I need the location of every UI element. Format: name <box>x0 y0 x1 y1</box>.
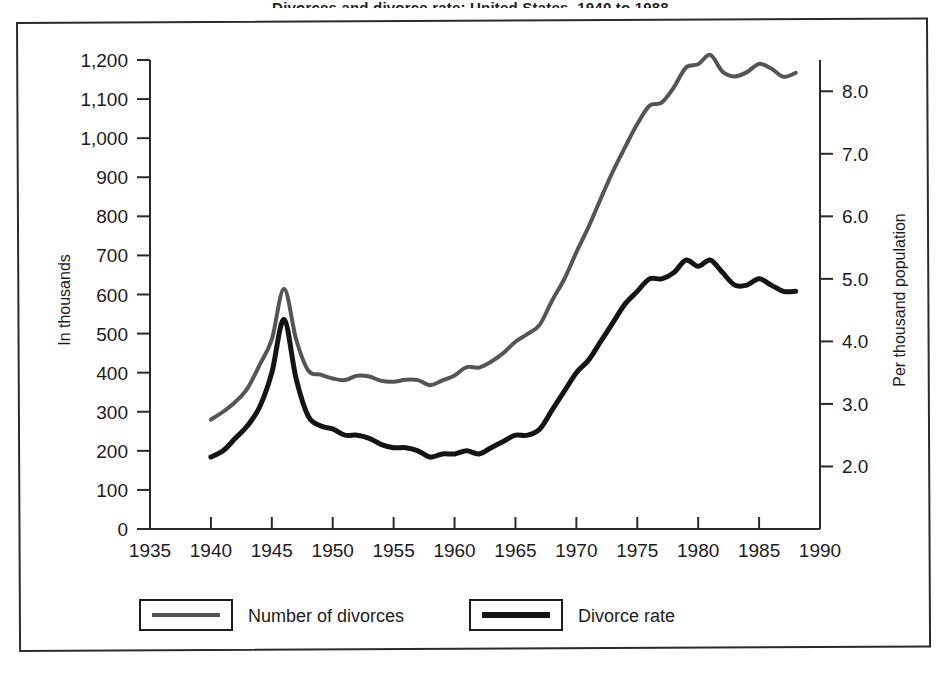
x-tick-label: 1960 <box>433 540 475 561</box>
right-tick-label: 3.0 <box>842 394 868 415</box>
left-tick-label: 1,100 <box>80 89 128 110</box>
x-tick-label: 1950 <box>312 540 354 561</box>
x-tick-label: 1935 <box>129 540 171 561</box>
right-axis-title: Per thousand population <box>891 213 908 386</box>
x-axis: 1935194019451950195519601965197019751980… <box>129 517 841 561</box>
left-tick-label: 400 <box>96 363 128 384</box>
x-tick-label: 1975 <box>616 540 658 561</box>
left-y-axis: 01002003004005006007008009001,0001,1001,… <box>56 50 150 540</box>
divorce-chart-svg: 01002003004005006007008009001,0001,1001,… <box>0 0 941 677</box>
left-tick-label: 200 <box>96 441 128 462</box>
left-tick-label: 1,000 <box>80 128 128 149</box>
x-tick-label: 1965 <box>494 540 536 561</box>
x-tick-label: 1985 <box>738 540 780 561</box>
series-number-of-divorces <box>211 55 796 420</box>
right-tick-label: 2.0 <box>842 456 868 477</box>
x-tick-label: 1945 <box>251 540 293 561</box>
left-tick-label: 1,200 <box>80 50 128 71</box>
x-tick-label: 1940 <box>190 540 232 561</box>
x-tick-label: 1990 <box>799 540 841 561</box>
legend-label-1: Divorce rate <box>578 606 675 626</box>
left-tick-label: 900 <box>96 167 128 188</box>
series-divorce-rate <box>211 260 796 457</box>
right-tick-label: 8.0 <box>842 81 868 102</box>
left-axis-title: In thousands <box>56 254 73 346</box>
chart-figure: 01002003004005006007008009001,0001,1001,… <box>0 0 941 677</box>
x-tick-label: 1970 <box>555 540 597 561</box>
left-tick-label: 500 <box>96 324 128 345</box>
right-tick-label: 5.0 <box>842 269 868 290</box>
left-tick-label: 0 <box>117 519 128 540</box>
right-y-axis: 2.03.04.05.06.07.08.0 Per thousand popul… <box>820 60 908 529</box>
left-tick-label: 700 <box>96 245 128 266</box>
x-tick-label: 1980 <box>677 540 719 561</box>
chart-legend: Number of divorces Divorce rate <box>140 600 675 630</box>
left-tick-label: 300 <box>96 402 128 423</box>
left-tick-label: 600 <box>96 285 128 306</box>
chart-page: Divorces and divorce rate: United States… <box>0 0 941 677</box>
x-tick-label: 1955 <box>372 540 414 561</box>
right-tick-label: 4.0 <box>842 331 868 352</box>
left-tick-label: 800 <box>96 206 128 227</box>
right-tick-label: 6.0 <box>842 206 868 227</box>
left-tick-label: 100 <box>96 480 128 501</box>
legend-label-0: Number of divorces <box>248 606 404 626</box>
right-tick-label: 7.0 <box>842 144 868 165</box>
